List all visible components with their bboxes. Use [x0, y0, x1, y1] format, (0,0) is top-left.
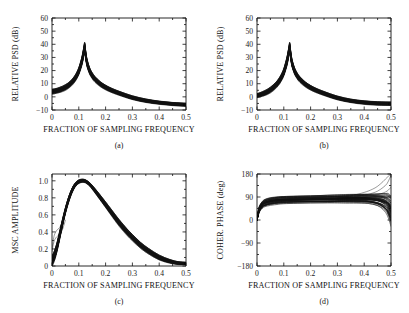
- y-tick-label: 40: [40, 40, 48, 49]
- psd-trace: [257, 49, 391, 105]
- x-axis-label: FRACTION OF SAMPLING FREQUENCY: [248, 125, 399, 134]
- curve-group: [257, 42, 391, 105]
- x-tick-label: 0.5: [386, 269, 396, 278]
- psd-trace: [52, 47, 186, 105]
- x-tick-label: 0.2: [306, 113, 316, 122]
- psd-trace: [257, 49, 391, 105]
- panel-label: (d): [319, 297, 328, 306]
- y-tick-label: 1.0: [39, 177, 49, 186]
- psd-trace: [52, 47, 186, 105]
- psd-trace: [52, 48, 186, 105]
- psd-trace: [52, 49, 186, 106]
- panel-label: (b): [319, 141, 328, 150]
- x-tick-label: 0.3: [333, 113, 343, 122]
- psd-trace: [257, 52, 391, 106]
- four-panel-spectral-figure: −10010203040506000.10.20.30.40.5FRACTION…: [0, 0, 409, 313]
- y-tick-label: −10: [36, 106, 48, 115]
- axis-frame: [257, 18, 391, 110]
- y-tick-label: 30: [245, 53, 253, 62]
- x-tick-label: 0.4: [359, 269, 369, 278]
- y-axis-label: RELATIVE PSD (dB): [216, 26, 225, 101]
- psd-trace: [52, 46, 186, 104]
- x-tick-label: 0.2: [101, 269, 111, 278]
- axis-frame: [257, 174, 391, 266]
- psd-trace: [52, 46, 186, 104]
- psd-trace: [52, 50, 186, 106]
- psd-trace: [52, 48, 186, 105]
- psd-trace: [52, 49, 186, 105]
- panel-c-plot: 00.20.40.60.81.000.10.20.30.40.5FRACTION…: [0, 156, 204, 312]
- psd-trace: [257, 50, 391, 105]
- panel-a-relative-psd: −10010203040506000.10.20.30.40.5FRACTION…: [0, 0, 204, 156]
- psd-trace: [52, 48, 186, 105]
- psd-trace: [52, 50, 186, 106]
- x-axis-label: FRACTION OF SAMPLING FREQUENCY: [248, 281, 399, 290]
- y-tick-label: 0.4: [39, 228, 49, 237]
- panel-b-plot: −10010203040506000.10.20.30.40.5FRACTION…: [205, 0, 409, 156]
- psd-trace: [257, 49, 391, 104]
- y-axis-label: RELATIVE PSD (dB): [11, 26, 20, 101]
- psd-trace: [257, 49, 391, 104]
- psd-trace: [52, 46, 186, 105]
- x-tick-label: 0.1: [279, 269, 289, 278]
- psd-trace: [257, 50, 391, 105]
- axis-frame-top-right: [52, 18, 186, 110]
- x-tick-label: 0: [255, 269, 259, 278]
- curve-group: [52, 42, 186, 106]
- x-tick-label: 0.5: [386, 113, 396, 122]
- x-tick-label: 0.1: [74, 113, 84, 122]
- x-tick-label: 0.5: [181, 269, 191, 278]
- y-tick-label: −10: [241, 106, 253, 115]
- x-axis-label: FRACTION OF SAMPLING FREQUENCY: [43, 281, 194, 290]
- y-tick-label: 0: [44, 93, 48, 102]
- panel-a-plot: −10010203040506000.10.20.30.40.5FRACTION…: [0, 0, 204, 156]
- panel-label: (a): [115, 141, 124, 150]
- y-tick-label: 50: [40, 27, 48, 36]
- curve-group: [257, 174, 391, 226]
- x-tick-label: 0.5: [181, 113, 191, 122]
- x-tick-label: 0.4: [154, 113, 164, 122]
- axis-frame-top-right: [257, 18, 391, 110]
- psd-trace: [52, 47, 186, 105]
- psd-trace: [52, 49, 186, 105]
- y-tick-label: 60: [40, 14, 48, 23]
- x-tick-label: 0: [50, 113, 54, 122]
- psd-trace: [52, 51, 186, 106]
- x-tick-label: 0.1: [279, 113, 289, 122]
- axis-frame-top-right: [257, 174, 391, 266]
- panel-b-relative-psd: −10010203040506000.10.20.30.40.5FRACTION…: [205, 0, 409, 156]
- psd-trace: [52, 49, 186, 105]
- psd-trace: [52, 46, 186, 105]
- psd-trace: [52, 47, 186, 105]
- y-tick-label: 0: [249, 93, 253, 102]
- y-tick-label: 20: [245, 66, 253, 75]
- x-tick-label: 0: [255, 113, 259, 122]
- panel-c-msc-amplitude: 00.20.40.60.81.000.10.20.30.40.5FRACTION…: [0, 156, 204, 312]
- panel-d-coherence-phase: −180−9009018000.10.20.30.40.5FRACTION OF…: [205, 156, 409, 312]
- psd-trace: [257, 203, 391, 226]
- curve-group: [52, 179, 186, 267]
- psd-trace: [257, 49, 391, 104]
- x-tick-label: 0.1: [74, 269, 84, 278]
- y-tick-label: 30: [40, 53, 48, 62]
- psd-trace: [52, 49, 186, 106]
- y-tick-label: 0.8: [39, 194, 49, 203]
- y-axis-label: MSC AMPLITUDE: [11, 186, 20, 253]
- y-tick-label: 10: [245, 79, 253, 88]
- x-tick-label: 0.2: [306, 269, 316, 278]
- panel-d-plot: −180−9009018000.10.20.30.40.5FRACTION OF…: [205, 156, 409, 312]
- psd-trace: [52, 50, 186, 106]
- psd-trace: [52, 48, 186, 105]
- y-tick-label: 0.6: [39, 211, 49, 220]
- y-tick-label: −90: [241, 239, 253, 248]
- panel-label: (c): [115, 297, 124, 306]
- y-tick-label: 0.2: [39, 245, 49, 254]
- psd-trace: [52, 48, 186, 105]
- y-tick-label: −180: [237, 262, 253, 271]
- x-tick-label: 0.3: [128, 269, 138, 278]
- x-tick-label: 0.3: [128, 113, 138, 122]
- y-tick-label: 20: [40, 66, 48, 75]
- x-tick-label: 0: [50, 269, 54, 278]
- psd-trace: [257, 202, 391, 223]
- x-axis-label: FRACTION OF SAMPLING FREQUENCY: [43, 125, 194, 134]
